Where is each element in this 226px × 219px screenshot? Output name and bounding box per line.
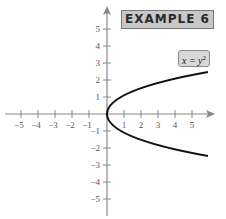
- svg-text:−4: −4: [90, 177, 100, 187]
- svg-text:1: 1: [96, 92, 101, 102]
- svg-text:−2: −2: [65, 120, 75, 130]
- svg-text:−5: −5: [90, 194, 100, 204]
- svg-text:5: 5: [190, 120, 195, 130]
- graph-canvas: −5 −4 −3 −2 −1 1 2 3 4 5 5 4 3 2 1 −1 −2…: [0, 0, 226, 219]
- svg-text:3: 3: [96, 58, 101, 68]
- equation-exponent: 2: [203, 54, 207, 62]
- svg-text:−4: −4: [31, 120, 41, 130]
- svg-text:−3: −3: [90, 160, 100, 170]
- x-tick-labels: −5 −4 −3 −2 −1 1 2 3 4 5: [14, 120, 195, 130]
- svg-text:1: 1: [122, 120, 127, 130]
- equation-label: x = y2: [178, 50, 210, 67]
- svg-text:4: 4: [96, 41, 101, 51]
- example-title: EXAMPLE 6: [125, 12, 210, 26]
- svg-text:−5: −5: [14, 120, 24, 130]
- svg-text:4: 4: [173, 120, 178, 130]
- svg-text:−2: −2: [90, 143, 100, 153]
- svg-text:3: 3: [156, 120, 161, 130]
- svg-text:2: 2: [139, 120, 144, 130]
- svg-text:5: 5: [96, 24, 101, 34]
- svg-text:−1: −1: [90, 126, 100, 136]
- svg-text:−3: −3: [48, 120, 58, 130]
- equation-text: x = y: [182, 55, 203, 66]
- svg-text:2: 2: [96, 75, 101, 85]
- example-title-badge: EXAMPLE 6: [121, 10, 214, 29]
